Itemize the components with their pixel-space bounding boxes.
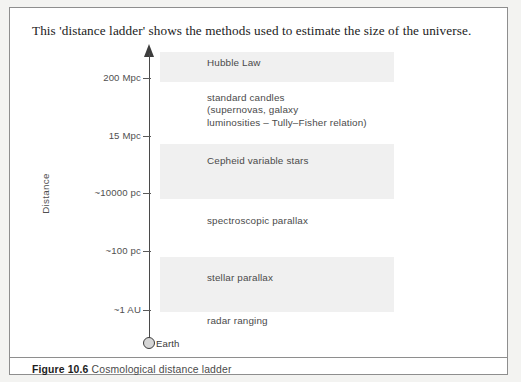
tick-label-1au: ~1 AU (114, 304, 141, 315)
tick-row-10000pc: ~10000 pc (10, 187, 141, 199)
figure-frame: This 'distance ladder' shows the methods… (9, 7, 508, 375)
tick-label-10000pc: ~10000 pc (95, 187, 141, 198)
tick-row-15mpc: 15 Mpc (10, 130, 141, 142)
method-label-standard-candles: standard candles (supernovas, galaxy lum… (207, 92, 367, 129)
tick-label-15mpc: 15 Mpc (109, 130, 141, 141)
method-label-spectroscopic-parallax: spectroscopic parallax (207, 215, 308, 227)
figure-number: Figure 10.6 (32, 364, 89, 375)
tick-label-200mpc: 200 Mpc (103, 72, 141, 83)
band-stellar-parallax (160, 257, 394, 312)
distance-axis-line (149, 53, 150, 338)
tick-row-100pc: ~100 pc (10, 245, 141, 257)
earth-label: Earth (156, 338, 179, 349)
tick-mark-15mpc (143, 136, 151, 137)
method-label-cepheid-variable-stars: Cepheid variable stars (207, 155, 309, 167)
tick-mark-1au (143, 310, 151, 311)
page-background: This 'distance ladder' shows the methods… (0, 0, 521, 382)
tick-row-1au: ~1 AU (10, 304, 141, 316)
caption-divider (10, 357, 507, 358)
distance-ladder-diagram: Distance 200 Mpc 15 Mpc ~10000 pc ~100 p… (10, 8, 509, 348)
method-label-radar-ranging: radar ranging (207, 315, 268, 327)
figure-title: Cosmological distance ladder (92, 364, 232, 375)
tick-row-200mpc: 200 Mpc (10, 72, 141, 84)
tick-mark-10000pc (143, 193, 151, 194)
figure-caption: Figure 10.6 Cosmological distance ladder (32, 364, 232, 375)
tick-mark-100pc (143, 251, 151, 252)
method-label-hubble-law: Hubble Law (207, 57, 261, 69)
earth-marker-icon (143, 337, 155, 349)
tick-label-100pc: ~100 pc (106, 245, 141, 256)
tick-mark-200mpc (143, 78, 151, 79)
band-hubble-law (160, 52, 394, 82)
band-cepheid-variable-stars (160, 144, 394, 199)
method-label-stellar-parallax: stellar parallax (207, 272, 273, 284)
